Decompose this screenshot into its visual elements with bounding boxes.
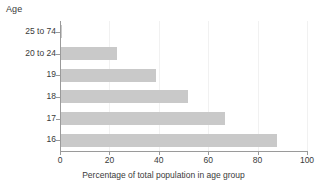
x-axis-tick-label: 0 — [58, 155, 63, 165]
bar — [60, 47, 117, 60]
x-axis-tick-label: 100 — [300, 155, 314, 165]
y-axis-tick — [56, 119, 60, 120]
x-axis-tick-label: 20 — [105, 155, 114, 165]
bar — [60, 112, 225, 125]
x-axis-line — [60, 151, 308, 152]
x-axis-title: Percentage of total population in age gr… — [0, 170, 327, 180]
gridline — [208, 21, 209, 151]
y-axis-tick-label: 18 — [0, 91, 56, 101]
y-axis-tick — [56, 97, 60, 98]
plot-area — [60, 21, 307, 151]
plot-background — [60, 21, 307, 151]
bar — [60, 69, 156, 82]
y-axis-tick-label: 20 to 24 — [0, 48, 56, 58]
x-axis-tick-label: 60 — [203, 155, 212, 165]
y-axis-tick — [56, 54, 60, 55]
y-axis-tick — [56, 75, 60, 76]
y-axis-title: Age — [6, 4, 22, 14]
x-axis-tick-label: 80 — [253, 155, 262, 165]
y-axis-tick-label: 17 — [0, 113, 56, 123]
y-axis-tick — [56, 140, 60, 141]
x-axis-tick-label: 40 — [154, 155, 163, 165]
y-axis-tick — [56, 32, 60, 33]
gridline — [307, 21, 308, 151]
y-axis-tick-label: 16 — [0, 134, 56, 144]
gridline — [258, 21, 259, 151]
gridline — [159, 21, 160, 151]
y-axis-tick-label: 19 — [0, 69, 56, 79]
y-axis-tick-label: 25 to 74 — [0, 26, 56, 36]
bar — [60, 90, 188, 103]
y-axis-line — [60, 21, 61, 151]
bar — [60, 134, 277, 147]
gridline — [109, 21, 110, 151]
bar-chart: Age 25 to 7420 to 2419181716 02040608010… — [0, 0, 327, 187]
